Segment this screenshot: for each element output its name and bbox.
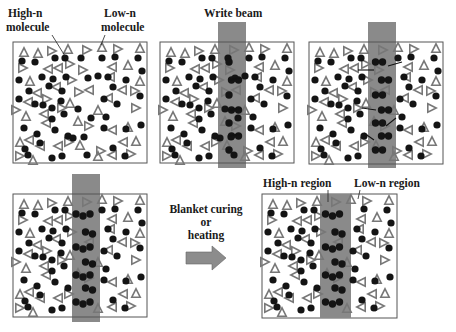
high-n-molecule: [62, 73, 69, 80]
high-n-molecule: [165, 57, 172, 64]
high-n-molecule: [25, 239, 32, 246]
high-n-molecule-polymerized: [379, 91, 386, 98]
high-n-molecule: [273, 303, 280, 310]
high-n-molecule: [24, 303, 31, 310]
high-n-molecule: [353, 97, 360, 104]
high-n-molecule: [264, 247, 271, 254]
high-n-molecule: [284, 121, 291, 128]
label-low-n-molecule-line2: molecule: [101, 21, 144, 33]
high-n-molecule-polymerized: [336, 210, 343, 217]
high-n-molecule: [418, 125, 425, 132]
high-n-molecule: [45, 234, 52, 241]
high-n-molecule: [38, 73, 45, 80]
high-n-molecule-polymerized: [372, 58, 379, 65]
high-n-molecule: [209, 73, 216, 80]
high-n-molecule: [269, 276, 276, 283]
high-n-molecule: [204, 97, 211, 104]
high-n-molecule: [20, 124, 27, 131]
high-n-molecule-polymerized: [82, 258, 89, 265]
high-n-molecule: [51, 206, 58, 213]
high-n-molecule: [51, 278, 58, 285]
high-n-molecule: [178, 100, 185, 107]
high-n-molecule: [186, 101, 193, 108]
high-n-molecule: [62, 225, 69, 232]
high-n-molecule-polymerized: [322, 298, 329, 305]
high-n-molecule: [102, 113, 109, 120]
high-n-molecule: [57, 249, 64, 256]
high-n-molecule: [136, 244, 143, 251]
high-n-molecule: [434, 67, 441, 74]
high-n-molecule: [195, 154, 202, 161]
high-n-molecule: [192, 82, 199, 89]
high-n-molecule: [371, 277, 378, 284]
high-n-molecule-polymerized: [235, 106, 242, 113]
high-n-molecule: [69, 134, 76, 141]
high-n-molecule-polymerized: [89, 286, 96, 293]
high-n-molecule: [396, 124, 403, 131]
high-n-molecule-polymerized: [336, 298, 343, 305]
high-n-molecule-polymerized: [379, 146, 386, 153]
high-n-molecule-polymerized: [72, 298, 79, 305]
high-n-molecule: [396, 95, 403, 102]
high-n-molecule: [205, 152, 212, 159]
high-n-molecule: [347, 54, 354, 61]
high-n-molecule: [49, 227, 56, 234]
high-n-molecule: [285, 291, 292, 298]
high-n-molecule: [298, 227, 305, 234]
high-n-molecule: [48, 115, 55, 122]
high-n-molecule: [344, 115, 351, 122]
high-n-molecule: [33, 130, 40, 137]
high-n-molecule: [48, 306, 55, 313]
high-n-molecule: [48, 104, 55, 111]
high-n-molecule: [249, 113, 256, 120]
high-n-molecule: [417, 152, 424, 159]
high-n-molecule: [387, 219, 394, 226]
high-n-molecule: [122, 76, 129, 83]
high-n-molecule: [216, 134, 223, 141]
panel-exposure-mid: [308, 22, 443, 168]
high-n-molecule: [61, 206, 68, 213]
high-n-molecule-polymerized: [331, 228, 338, 235]
process-arrow-icon: [186, 246, 226, 270]
high-n-molecule: [274, 239, 281, 246]
high-n-molecule: [360, 205, 367, 212]
high-n-molecule: [297, 306, 304, 313]
high-n-molecule-polymerized: [79, 300, 86, 307]
high-n-molecule: [18, 57, 25, 64]
high-n-molecule: [433, 121, 440, 128]
high-n-molecule: [344, 104, 351, 111]
high-n-molecule: [20, 276, 27, 283]
high-n-molecule: [300, 278, 307, 285]
high-n-molecule: [111, 53, 118, 60]
high-n-molecule: [137, 121, 144, 128]
high-n-molecule: [134, 54, 141, 61]
high-n-molecule: [314, 57, 321, 64]
high-n-molecule: [31, 100, 38, 107]
high-n-molecule: [98, 206, 105, 213]
high-n-molecule: [36, 291, 43, 298]
high-n-molecule: [31, 210, 38, 217]
high-n-molecule-polymerized: [385, 132, 392, 139]
high-n-molecule: [15, 76, 22, 83]
high-n-molecule-polymerized: [235, 76, 242, 83]
high-n-molecule: [280, 210, 287, 217]
high-n-molecule: [84, 74, 91, 81]
high-n-molecule: [195, 115, 202, 122]
high-n-molecule: [247, 124, 254, 131]
high-n-molecule-polymerized: [86, 243, 93, 250]
panel-exposure-end: [12, 174, 147, 322]
high-n-molecule-polymerized: [322, 210, 329, 217]
high-n-molecule: [297, 256, 304, 263]
high-n-molecule: [300, 206, 307, 213]
high-n-molecule: [311, 225, 318, 232]
high-n-molecule: [122, 228, 129, 235]
high-n-molecule: [281, 54, 288, 61]
high-n-molecule: [39, 101, 46, 108]
high-n-molecule: [307, 304, 314, 311]
high-n-molecule: [310, 206, 317, 213]
high-n-molecule: [351, 265, 358, 272]
high-n-molecule: [167, 124, 174, 131]
high-n-molecule: [38, 225, 45, 232]
high-n-molecule: [353, 225, 360, 232]
high-n-molecule: [172, 87, 179, 94]
